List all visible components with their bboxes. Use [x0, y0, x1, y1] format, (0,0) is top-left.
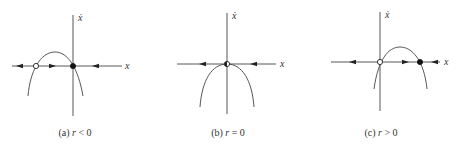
caption-label: (a): [58, 127, 69, 138]
half-stable-fixed-point-icon: [224, 61, 229, 66]
flow-arrow-left-icon: [92, 64, 99, 68]
caption-label: (b): [211, 127, 223, 138]
x-axis-label: x: [279, 58, 285, 69]
phase-portrait-panel-c: xẋ: [331, 9, 449, 111]
x-axis-label: x: [124, 60, 130, 71]
flow-arrow-right-icon: [49, 64, 56, 68]
vector-field-curve: [374, 47, 427, 89]
caption-relation: < 0: [78, 127, 91, 138]
bifurcation-figure: xẋxẋxẋ (a) r < 0 (b) r = 0 (c) r > 0: [0, 0, 461, 149]
caption-variable: r: [378, 127, 382, 138]
vector-field-curve: [28, 52, 83, 96]
stable-fixed-point-icon: [70, 63, 75, 68]
y-axis-label: ẋ: [77, 12, 83, 23]
caption-label: (c): [364, 127, 375, 138]
flow-arrow-right-icon: [402, 60, 409, 64]
phase-portrait-panel-b: xẋ: [177, 10, 285, 114]
flow-arrow-left-icon: [199, 62, 206, 66]
phase-portrait-panel-a: xẋ: [12, 12, 130, 116]
caption-variable: r: [225, 127, 229, 138]
flow-arrow-left-icon: [431, 60, 438, 64]
flow-arrow-left-icon: [349, 60, 356, 64]
caption-panel-b: (b) r = 0: [211, 127, 245, 138]
y-axis-label: ẋ: [231, 10, 237, 21]
unstable-fixed-point-icon: [33, 63, 38, 68]
unstable-fixed-point-icon: [377, 59, 382, 64]
flow-arrow-left-icon: [16, 64, 23, 68]
y-axis-label: ẋ: [384, 9, 390, 20]
flow-arrow-left-icon: [250, 62, 257, 66]
caption-panel-c: (c) r > 0: [364, 127, 397, 138]
caption-relation: = 0: [232, 127, 245, 138]
stable-fixed-point-icon: [417, 59, 422, 64]
caption-variable: r: [72, 127, 76, 138]
caption-panel-a: (a) r < 0: [58, 127, 91, 138]
caption-relation: > 0: [384, 127, 397, 138]
x-axis-label: x: [443, 56, 449, 67]
